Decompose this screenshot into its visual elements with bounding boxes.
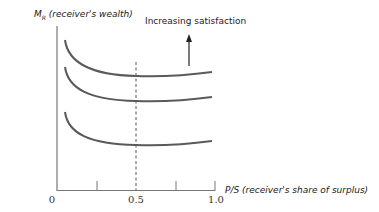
x-tick-label-0.5: 0.5 [128, 194, 144, 205]
indifference-curve-mid [65, 67, 212, 101]
indifference-curve-high [65, 40, 212, 76]
y-axis-label-main: M [34, 9, 42, 19]
indifference-curve-low [65, 112, 212, 145]
chart-canvas [0, 0, 379, 212]
x-axis-label: P/S (receiver's share of surplus) [225, 185, 368, 195]
x-tick-label-0: 0 [49, 194, 55, 205]
x-tick-label-1.0: 1.0 [208, 194, 224, 205]
arrow-head-icon [186, 34, 192, 42]
annotation-label: Increasing satisfaction [145, 16, 246, 26]
y-axis-label: MR (receiver's wealth) [34, 9, 133, 21]
y-axis-label-rest: (receiver's wealth) [46, 9, 133, 19]
